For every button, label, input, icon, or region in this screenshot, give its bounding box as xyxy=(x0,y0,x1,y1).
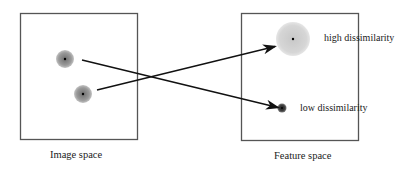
point-center-dot xyxy=(292,38,294,40)
mapping-arrows xyxy=(82,47,278,108)
image-point-b xyxy=(74,85,92,103)
image-space-panel: Image space xyxy=(21,14,138,161)
feature-space-panel: high dissimilarity low dissimilarity Fea… xyxy=(242,14,395,162)
high-dissimilarity-point xyxy=(276,22,310,56)
feature-space-caption: Feature space xyxy=(274,150,332,161)
low-dissimilarity-point xyxy=(278,104,287,113)
point-center-dot xyxy=(64,58,66,60)
image-to-feature-space-diagram: Image space high dissimilarity low dissi… xyxy=(0,0,415,171)
arrow-to-low-dissimilarity xyxy=(82,60,278,108)
image-space-caption: Image space xyxy=(50,149,103,160)
high-dissimilarity-label: high dissimilarity xyxy=(324,32,394,43)
arrow-to-high-dissimilarity xyxy=(97,47,275,91)
image-point-a xyxy=(56,50,74,68)
point-center-dot xyxy=(82,93,84,95)
low-dissimilarity-label: low dissimilarity xyxy=(300,102,368,113)
image-space-box xyxy=(21,14,138,140)
point-center-dot xyxy=(281,107,283,109)
